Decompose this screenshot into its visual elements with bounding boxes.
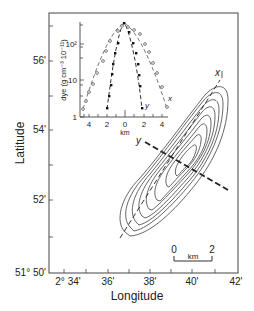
x-series-markers xyxy=(82,25,169,111)
inset-chart: 1 10 10² 4 2 0 2 4 km dye (g cm⁻³ 10⁻¹¹) xyxy=(59,22,173,136)
y-tick-52: 52' xyxy=(33,194,46,205)
inset-y-tick-10: 10 xyxy=(68,76,77,85)
x-tick-2-34: 2° 34' xyxy=(55,276,80,287)
x-tick-40: 40' xyxy=(185,276,198,287)
inset-x-tick-2: 2 xyxy=(142,120,147,129)
patch-x-label: x xyxy=(214,67,221,78)
scale-bar-end: 2 xyxy=(209,244,215,255)
dye-patch-figure: 56' 54' 52' 51° 50' 2° 34' 36' 38' 40' 4… xyxy=(0,0,254,311)
y-tick-54: 54' xyxy=(33,124,46,135)
latitude-ticks xyxy=(49,26,53,237)
y-series-markers xyxy=(106,22,143,109)
inset-y-tick-1: 1 xyxy=(73,113,78,122)
inset-y-axis-title: dye (g cm⁻³ 10⁻¹¹) xyxy=(59,39,68,101)
x-fit-curve xyxy=(83,23,167,109)
inset-x-series-label: x xyxy=(167,94,173,103)
x-tick-38: 38' xyxy=(143,276,156,287)
inset-x-axis-title: km xyxy=(120,129,130,136)
x-tick-36: 36' xyxy=(101,276,114,287)
patch-y-axis-line xyxy=(145,142,228,190)
patch-y-label: y xyxy=(135,135,142,146)
y-tick-51-50: 51° 50' xyxy=(15,267,46,278)
x-tick-42: 42' xyxy=(229,276,242,287)
inset-x-tick-0: 0 xyxy=(123,120,128,129)
scale-bar-unit: km xyxy=(188,252,199,261)
inset-y-series-label: y xyxy=(144,101,150,110)
x-axis-title: Longitude xyxy=(111,289,164,303)
inset-x-tick-4: 4 xyxy=(160,120,165,129)
y-axis-title: Latitude xyxy=(13,121,27,164)
longitude-ticks xyxy=(64,269,215,273)
inset-x-tick-neg2: 2 xyxy=(105,120,110,129)
y-tick-56: 56' xyxy=(33,55,46,66)
scale-bar-start: 0 xyxy=(171,244,177,255)
scale-bar: 0 2 km xyxy=(171,244,215,261)
contour-lines xyxy=(120,87,228,236)
inset-x-tick-neg4: 4 xyxy=(87,120,92,129)
